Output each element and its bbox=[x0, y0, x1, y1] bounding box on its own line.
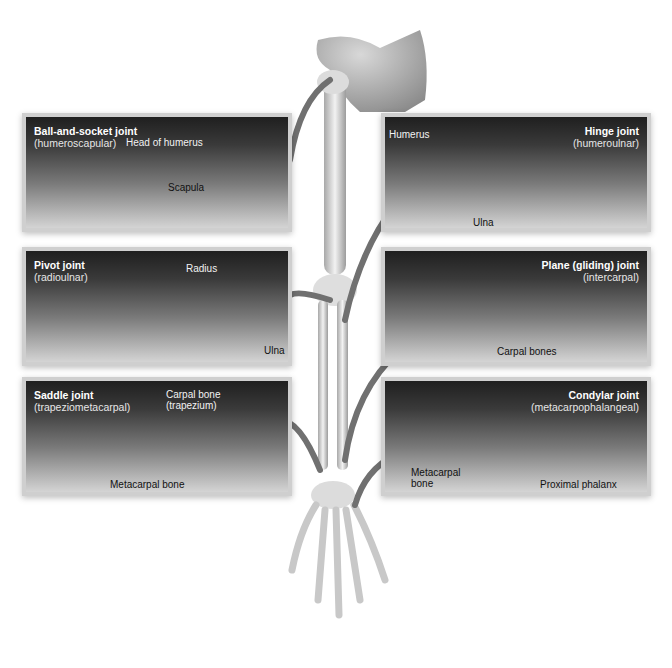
panel-title: Saddle joint bbox=[34, 389, 94, 401]
label-carpal-bones: Carpal bones bbox=[497, 346, 556, 357]
panel-title: Plane (gliding) joint bbox=[542, 259, 639, 271]
panel-subtitle: (humeroscapular) bbox=[34, 137, 116, 149]
label-metacarpal: Metacarpal bbox=[411, 467, 460, 478]
label-metacarpal-bone: Metacarpal bone bbox=[110, 479, 185, 490]
panel-title: Hinge joint bbox=[585, 125, 639, 137]
label-ulna: Ulna bbox=[264, 345, 285, 356]
panel-title: Ball-and-socket joint bbox=[34, 125, 137, 137]
label-radius: Radius bbox=[186, 263, 217, 274]
label-ulna: Ulna bbox=[473, 217, 494, 228]
label-scapula: Scapula bbox=[168, 182, 204, 193]
panel-pivot: Pivot joint (radioulnar) Radius Ulna bbox=[22, 247, 292, 366]
label-head-of-humerus: Head of humerus bbox=[126, 137, 203, 148]
panel-condylar: Condylar joint (metacarpophalangeal) Met… bbox=[381, 377, 651, 496]
label-proximal-phalanx: Proximal phalanx bbox=[540, 479, 617, 490]
joint-diagram: Ball-and-socket joint (humeroscapular) H… bbox=[0, 0, 672, 668]
panel-saddle: Saddle joint (trapeziometacarpal) Carpal… bbox=[22, 377, 292, 496]
panel-plane-gliding: Plane (gliding) joint (intercarpal) Carp… bbox=[381, 247, 651, 366]
panel-title: Pivot joint bbox=[34, 259, 85, 271]
panel-title: Condylar joint bbox=[568, 389, 639, 401]
label-carpal-bone: Carpal bone bbox=[166, 389, 220, 400]
panel-ball-and-socket: Ball-and-socket joint (humeroscapular) H… bbox=[22, 113, 292, 232]
panel-subtitle: (metacarpophalangeal) bbox=[531, 401, 639, 413]
panel-hinge: Hinge joint (humeroulnar) Humerus Ulna bbox=[381, 113, 651, 232]
panel-subtitle: (trapeziometacarpal) bbox=[34, 401, 130, 413]
label-trapezium: (trapezium) bbox=[166, 400, 217, 411]
label-humerus: Humerus bbox=[389, 129, 430, 140]
panel-subtitle: (humeroulnar) bbox=[573, 137, 639, 149]
panel-subtitle: (intercarpal) bbox=[583, 271, 639, 283]
label-bone: bone bbox=[411, 478, 433, 489]
panel-subtitle: (radioulnar) bbox=[34, 271, 88, 283]
